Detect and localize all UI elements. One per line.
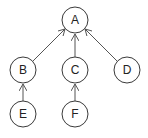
node-a-label: A bbox=[71, 13, 79, 27]
node-e-label: E bbox=[19, 107, 27, 121]
node-f: F bbox=[62, 101, 88, 127]
edge-d-to-a bbox=[85, 29, 117, 61]
node-b-label: B bbox=[19, 63, 27, 77]
node-f-label: F bbox=[71, 107, 78, 121]
edge-b-to-a bbox=[33, 29, 65, 61]
node-d: D bbox=[114, 57, 140, 83]
node-a: A bbox=[62, 7, 88, 33]
node-c-label: C bbox=[71, 63, 80, 77]
node-b: B bbox=[10, 57, 36, 83]
node-d-label: D bbox=[123, 63, 132, 77]
node-e: E bbox=[10, 101, 36, 127]
tree-diagram: A B C D E F bbox=[0, 0, 148, 138]
node-c: C bbox=[62, 57, 88, 83]
